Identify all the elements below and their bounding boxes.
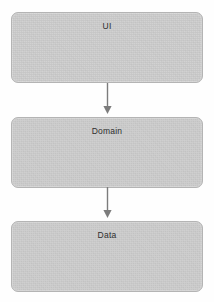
arrow-down-icon-domain-to-data	[103, 187, 112, 220]
layer-box-ui[interactable]: UI	[11, 12, 203, 83]
layer-box-domain[interactable]: Domain	[11, 117, 203, 188]
layer-label-domain: Domain	[12, 126, 202, 137]
layer-label-ui: UI	[12, 21, 202, 32]
diagram-canvas: UI Domain Data	[0, 0, 214, 302]
layer-box-data[interactable]: Data	[11, 221, 203, 292]
arrow-down-icon-ui-to-domain	[103, 83, 112, 116]
layer-label-data: Data	[12, 230, 202, 241]
